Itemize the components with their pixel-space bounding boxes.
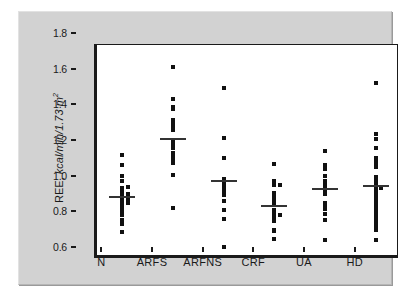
data-point: [171, 161, 175, 165]
data-point: [222, 245, 226, 249]
data-point: [222, 199, 226, 203]
data-point: [120, 222, 124, 226]
data-point: [323, 192, 327, 196]
y-axis-tick: [71, 103, 76, 105]
y-axis-tick: [71, 246, 76, 248]
data-point: [278, 183, 282, 187]
data-point: [171, 97, 175, 101]
y-axis-label-unit: kcal/min/1.73 m: [53, 97, 65, 174]
mean-line: [261, 205, 287, 207]
plot-area: [97, 45, 397, 255]
y-axis-tick: [71, 210, 76, 212]
data-point: [272, 229, 276, 233]
data-point: [272, 237, 276, 241]
data-point: [171, 121, 175, 125]
data-point: [323, 174, 327, 178]
mean-line: [211, 180, 237, 182]
data-point: [171, 128, 175, 132]
mean-line: [312, 188, 338, 190]
x-axis-tick: [151, 247, 153, 252]
data-point: [374, 191, 378, 195]
data-point: [120, 153, 124, 157]
data-point: [374, 165, 378, 169]
x-axis-tick: [303, 247, 305, 252]
y-axis-tick: [71, 32, 76, 34]
data-point: [374, 201, 378, 205]
figure-container: 1.81.61.41.21.00.80.6NARFSARFNSCRFUAHD R…: [0, 0, 409, 305]
data-point: [171, 107, 175, 111]
data-point: [120, 163, 124, 167]
data-point: [374, 228, 378, 232]
data-point: [222, 86, 226, 90]
data-point: [222, 217, 226, 221]
data-point: [222, 136, 226, 140]
data-point: [222, 208, 226, 212]
data-point: [323, 167, 327, 171]
data-point: [374, 238, 378, 242]
y-axis-tick-label: 1.8: [41, 27, 67, 39]
data-point: [374, 81, 378, 85]
x-axis-tick-label-hd: HD: [346, 256, 363, 268]
mean-line: [109, 196, 135, 198]
data-point: [323, 238, 327, 242]
data-point: [323, 149, 327, 153]
data-point: [323, 212, 327, 216]
figure-mount: 1.81.61.41.21.00.80.6NARFSARFNSCRFUAHD R…: [18, 11, 392, 285]
y-axis-label-exponent: 2: [51, 93, 60, 97]
data-point: [222, 193, 226, 197]
y-axis-tick: [71, 175, 76, 177]
x-axis-tick-label-crf: CRF: [242, 256, 266, 268]
plot-frame: [94, 44, 398, 258]
x-axis-tick-label-n: N: [97, 256, 105, 268]
data-point: [374, 137, 378, 141]
data-point: [171, 173, 175, 177]
data-point: [171, 146, 175, 150]
data-point: [374, 132, 378, 136]
x-axis-tick: [354, 247, 356, 252]
x-axis-tick: [252, 247, 254, 252]
data-point: [323, 207, 327, 211]
y-axis-tick: [71, 68, 76, 70]
data-point: [126, 185, 130, 189]
data-point: [120, 213, 124, 217]
y-axis-tick: [71, 139, 76, 141]
data-point: [120, 230, 124, 234]
x-axis-tick: [100, 247, 102, 252]
data-point: [272, 219, 276, 223]
data-point: [272, 183, 276, 187]
mean-line: [160, 138, 186, 140]
data-point: [171, 206, 175, 210]
mean-line: [363, 185, 389, 187]
x-axis-tick: [202, 247, 204, 252]
y-axis-label-prefix: REE,: [53, 177, 65, 203]
data-point: [120, 179, 124, 183]
x-axis-tick-label-arfs: ARFS: [137, 256, 168, 268]
x-axis-tick-label-arfns: ARFNS: [183, 256, 222, 268]
data-point: [323, 218, 327, 222]
data-point: [272, 162, 276, 166]
data-point: [374, 146, 378, 150]
data-point: [222, 156, 226, 160]
x-axis-tick-label-ua: UA: [296, 256, 312, 268]
data-point: [171, 65, 175, 69]
data-point: [120, 174, 124, 178]
data-point: [126, 201, 130, 205]
data-point: [278, 213, 282, 217]
y-axis-label: REE, kcal/min/1.73 m2: [51, 53, 65, 243]
